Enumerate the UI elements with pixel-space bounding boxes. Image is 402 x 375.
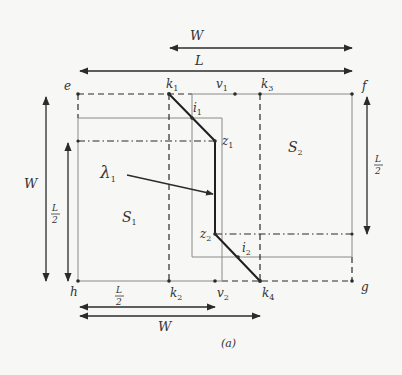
dimension-label-right-l-half-num: L <box>374 154 381 164</box>
label-i2: i2 <box>242 241 251 257</box>
label-k1: k1 <box>166 77 178 93</box>
region-label-s2: S2 <box>288 139 303 157</box>
lambda1-pointer-arrow <box>127 175 213 194</box>
region-label-s1: S1 <box>122 209 137 227</box>
point-k2 <box>167 279 171 283</box>
label-k3: k3 <box>261 77 273 93</box>
dimension-label-top-l: L <box>194 53 204 68</box>
point-k3 <box>258 92 262 96</box>
point-i2 <box>236 255 240 259</box>
dimension-label-bottom-l-half-num: L <box>115 285 122 295</box>
label-v1: v1 <box>216 77 228 93</box>
label-h: h <box>70 285 78 299</box>
diagram-canvas: W L e f g h <box>0 0 402 375</box>
point-e <box>76 92 80 96</box>
dimension-label-bottom-w: W <box>158 319 173 334</box>
point-z1 <box>213 139 217 143</box>
point-v1 <box>233 92 237 96</box>
point-g <box>350 279 354 283</box>
label-g: g <box>361 280 369 294</box>
point-k1 <box>167 92 171 96</box>
dimension-label-top-w: W <box>190 28 205 43</box>
label-v2: v2 <box>217 286 229 302</box>
point-z2-right <box>350 232 353 235</box>
path-label-lambda1: λ1 <box>99 162 116 184</box>
dimension-label-left-w: W <box>24 176 39 191</box>
label-e: e <box>64 79 71 93</box>
label-z2: z2 <box>199 227 211 243</box>
point-v2 <box>213 279 217 283</box>
point-z1-left <box>76 139 79 142</box>
label-z1: z1 <box>221 134 233 150</box>
dimension-label-bottom-l-half-den: 2 <box>115 297 122 307</box>
point-h <box>76 279 80 283</box>
dimension-label-right-l-half-den: 2 <box>374 166 381 176</box>
label-k2: k2 <box>170 286 182 302</box>
point-i1 <box>190 116 194 120</box>
label-i1: i1 <box>193 101 202 117</box>
point-z2 <box>213 232 217 236</box>
point-k4 <box>258 279 262 283</box>
label-k4: k4 <box>262 286 274 302</box>
dimension-label-left-l-half-den: 2 <box>51 215 58 225</box>
dimension-label-left-l-half-num: L <box>51 203 58 213</box>
label-f: f <box>361 79 369 93</box>
point-f <box>350 92 354 96</box>
figure-caption: (a) <box>221 337 236 350</box>
